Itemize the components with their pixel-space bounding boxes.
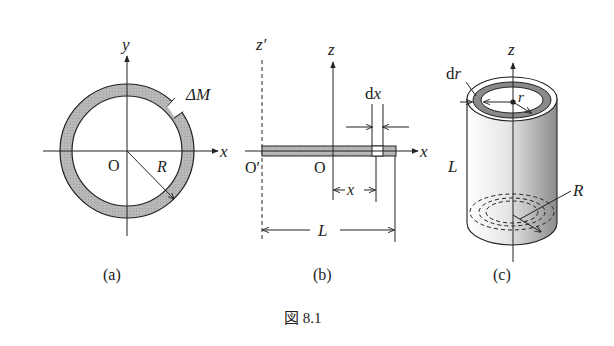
delta-m-label: ΔM bbox=[185, 85, 211, 104]
origin-label: O bbox=[108, 157, 120, 174]
x-axis-label: x bbox=[419, 142, 428, 161]
radius-arrow bbox=[127, 151, 174, 199]
z-axis-label: z bbox=[327, 40, 335, 59]
figure-8-1: x y O R ΔM (a) z′ x z O′ O dx x bbox=[0, 0, 614, 346]
radius-label: R bbox=[156, 158, 167, 175]
panel-c-label: (c) bbox=[493, 266, 511, 284]
mass-element-delta-m bbox=[171, 102, 179, 114]
position-x-label: x bbox=[346, 181, 354, 198]
z-axis-label: z bbox=[507, 40, 515, 59]
panel-c: z r dr R L (c) bbox=[446, 40, 584, 284]
z-prime-label: z′ bbox=[255, 35, 267, 54]
origin-prime-label: O′ bbox=[245, 159, 260, 176]
panel-a: x y O R ΔM (a) bbox=[43, 35, 228, 284]
dr-label: dr bbox=[446, 64, 462, 83]
figure-caption: 図 8.1 bbox=[284, 310, 322, 326]
y-axis-label: y bbox=[120, 35, 130, 54]
length-label: L bbox=[317, 221, 327, 240]
length-label: L bbox=[447, 157, 457, 176]
panel-a-label: (a) bbox=[103, 266, 121, 284]
panel-b: z′ x z O′ O dx x L (b) bbox=[245, 35, 428, 284]
origin-label: O bbox=[314, 159, 326, 176]
radius-label: R bbox=[572, 181, 584, 200]
x-axis-label: x bbox=[219, 142, 228, 161]
shell-radius-label: r bbox=[518, 89, 524, 105]
panel-b-label: (b) bbox=[313, 266, 332, 284]
dx-label: dx bbox=[365, 84, 382, 103]
